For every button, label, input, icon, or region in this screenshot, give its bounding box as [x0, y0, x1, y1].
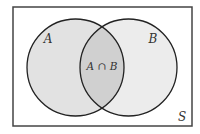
universe-label: S: [178, 110, 186, 124]
set-b-label: B: [148, 32, 158, 46]
intersection-label: A ∩ B: [86, 60, 118, 72]
set-a-label: A: [43, 32, 53, 46]
venn-diagram: A B A ∩ B S: [0, 0, 200, 134]
